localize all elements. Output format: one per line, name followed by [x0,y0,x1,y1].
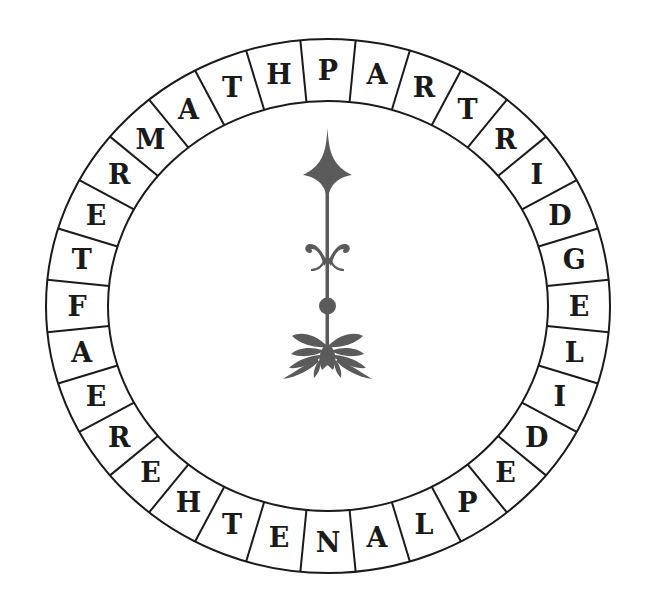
ring-letter: H [266,59,292,90]
ring-letter: T [222,72,242,103]
segment-divider [195,71,224,126]
ring-letter: T [457,94,477,125]
ring-letter: E [495,457,516,488]
ornament-stem [326,185,330,347]
segment-divider [350,510,356,572]
ring-letter: A [365,59,388,90]
ring-letter: P [318,55,338,86]
ring-letter: R [413,72,436,103]
ring-letter: A [177,94,200,125]
ring-letter: I [530,159,543,190]
ring-letter: D [525,422,548,453]
ring-letter: R [108,159,131,190]
segment-divider [300,510,306,572]
ring-letter: L [415,509,434,540]
segment-divider [47,326,109,332]
segment-divider [246,502,264,561]
segment-divider [246,50,264,109]
segment-divider [350,40,356,102]
ring-letter: A [70,337,93,368]
ring-letter: N [316,527,341,558]
ornament-star-icon [303,128,352,198]
ring-letter: A [365,522,388,553]
segment-divider [539,366,598,384]
segment-divider [47,280,109,286]
ring-letter: H [176,487,202,518]
ring-letter: R [108,422,131,453]
ring-letter: T [222,509,242,540]
segment-divider [392,502,410,561]
ring-letter: M [136,124,166,155]
ring-letter: L [565,337,584,368]
ring-letter: E [86,381,107,412]
segment-divider [392,50,410,109]
ring-letter: F [67,291,86,322]
center-ornament-icon [283,128,372,379]
ring-letter: G [563,244,586,275]
segment-divider [300,40,306,102]
ring-letter: P [457,487,477,518]
segment-divider [547,280,609,286]
ring-letter: R [494,124,517,155]
ring-letter: E [269,522,290,553]
ring-letter: T [72,244,92,275]
letter-wheel: PARTRIDGELIDEPLANETHEREAFTERMATH [0,0,649,611]
ring-letter: D [548,200,571,231]
segment-divider [547,326,609,332]
ring-letter: E [569,291,590,322]
ornament-ball-icon [319,298,336,315]
ring-letter: I [554,381,567,412]
ring-letter: E [86,200,107,231]
ring-letter: E [140,457,161,488]
